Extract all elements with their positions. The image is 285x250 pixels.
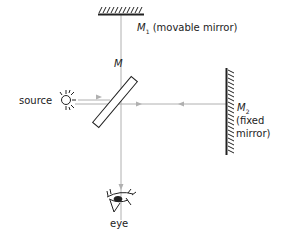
m1-subscript: 1 [146,28,150,35]
fixed-mirror-desc-1: (fixed [236,115,264,126]
beam-splitter-icon [93,76,138,127]
fixed-mirror-icon [227,68,235,155]
fixed-mirror-desc-2: mirror) [236,128,270,139]
light-source-icon [60,90,76,110]
beam-splitter-label: M [114,58,123,69]
m2-subscript: 2 [246,108,250,115]
m1-symbol: M [137,22,146,33]
m1-description: (movable mirror) [153,22,238,33]
source-label: source [19,95,52,106]
arrow-right-icon [136,102,142,107]
movable-mirror-icon [98,7,144,15]
arrow-down-icon [119,184,124,190]
arrow-left-icon [178,102,184,107]
m2-symbol: M [237,102,246,113]
movable-mirror-label: M1 (movable mirror) [137,22,237,37]
arrow-right-icon [96,95,102,100]
eye-label: eye [110,218,128,229]
